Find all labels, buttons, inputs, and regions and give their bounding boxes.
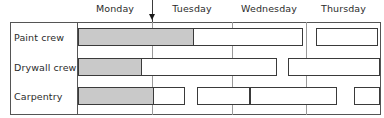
column-header-thursday: Thursday xyxy=(306,2,381,16)
task-bar[interactable] xyxy=(197,87,250,105)
row-label-drywall-crew-text: Drywall crew xyxy=(14,62,76,73)
row-label-carpentry-text: Carpentry xyxy=(14,91,62,102)
task-bar[interactable] xyxy=(250,87,337,105)
row-label-carpentry: Carpentry xyxy=(14,91,62,103)
row-label-drywall-crew: Drywall crew xyxy=(14,62,76,74)
column-header-monday: Monday xyxy=(78,2,152,16)
task-bar[interactable] xyxy=(316,28,378,46)
gantt-chart: Monday Tuesday Wednesday Thursday Paint … xyxy=(0,0,384,118)
task-bar[interactable] xyxy=(288,58,380,76)
task-bar[interactable] xyxy=(78,87,185,105)
column-header-wednesday: Wednesday xyxy=(232,2,306,16)
row-label-paint-crew: Paint crew xyxy=(14,32,64,44)
task-bar-progress xyxy=(79,29,194,45)
current-time-arrow-icon xyxy=(149,14,155,20)
column-header-monday-label: Monday xyxy=(96,3,134,14)
column-header-tuesday: Tuesday xyxy=(152,2,232,16)
task-bar[interactable] xyxy=(354,87,380,105)
task-bar[interactable] xyxy=(78,28,303,46)
task-bar-progress xyxy=(79,88,154,104)
row-label-paint-crew-text: Paint crew xyxy=(14,32,64,43)
column-header-wednesday-label: Wednesday xyxy=(241,3,297,14)
column-header-thursday-label: Thursday xyxy=(321,3,366,14)
task-bar[interactable] xyxy=(78,58,277,76)
column-header-tuesday-label: Tuesday xyxy=(172,3,211,14)
task-bar-progress xyxy=(79,59,142,75)
